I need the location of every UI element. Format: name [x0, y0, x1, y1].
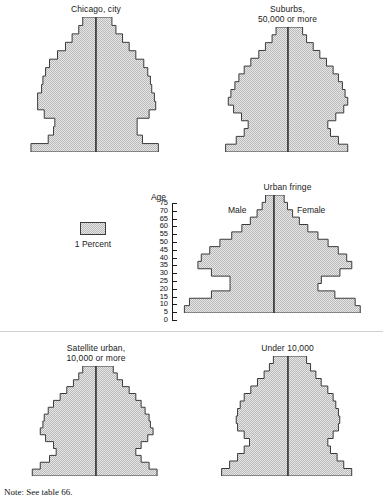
pyramid-satellite-urban: [21, 366, 192, 476]
pyramid-half-left: [31, 17, 96, 152]
age-tick: [172, 234, 177, 235]
age-tick: [172, 273, 177, 274]
age-axis-line: [172, 203, 173, 320]
age-tick: [172, 258, 177, 259]
pyramid-half-left: [221, 356, 287, 476]
panel-title-chicago-city: Chicago, city: [0, 4, 192, 14]
panel-under-10000: Under 10,000: [192, 343, 383, 476]
pyramid-urban-fringe: [179, 195, 383, 313]
age-tick-label: 0: [132, 316, 168, 324]
pyramid-half-right: [288, 356, 352, 476]
pyramid-half-right: [288, 27, 348, 152]
age-tick: [172, 226, 177, 227]
age-axis: Age 757065605550454035302520151050: [132, 192, 184, 324]
age-tick: [172, 304, 177, 305]
age-tick-label: 10: [132, 300, 168, 308]
age-tick-label: 5: [132, 308, 168, 316]
pyramid-half-left: [32, 366, 96, 476]
pyramid-half-right: [96, 17, 158, 152]
figure-note: Note: See table 66.: [4, 487, 72, 497]
pyramid-suburbs: [213, 27, 383, 152]
age-tick: [172, 242, 177, 243]
panel-urban-fringe: Urban fringe: [192, 182, 383, 313]
age-tick: [172, 203, 177, 204]
panel-chicago-city: Chicago, city: [0, 4, 192, 152]
panel-title-urban-fringe: Urban fringe: [192, 182, 383, 192]
pyramid-chicago-city: [21, 17, 192, 152]
panel-suburbs: Suburbs, 50,000 or more: [192, 4, 383, 152]
pyramid-half-left: [225, 27, 287, 152]
age-tick: [172, 289, 177, 290]
female-label: Female: [297, 205, 325, 215]
age-tick: [172, 320, 177, 321]
age-tick: [172, 211, 177, 212]
panel-title-satellite-urban: Satellite urban, 10,000 or more: [0, 343, 192, 363]
stipple-swatch-icon: [80, 222, 106, 235]
legend-label: 1 Percent: [75, 239, 111, 249]
age-tick: [172, 219, 177, 220]
panel-title-suburbs: Suburbs, 50,000 or more: [192, 4, 383, 24]
age-tick: [172, 312, 177, 313]
pyramid-half-right: [96, 366, 157, 476]
age-tick: [172, 297, 177, 298]
male-label: Male: [228, 205, 246, 215]
age-tick: [172, 281, 177, 282]
panel-satellite-urban: Satellite urban, 10,000 or more: [0, 343, 192, 476]
row-divider: [0, 331, 383, 332]
age-tick: [172, 250, 177, 251]
panel-title-under-10000: Under 10,000: [192, 343, 383, 353]
age-tick: [172, 265, 177, 266]
pyramid-under-10000: [213, 356, 383, 476]
